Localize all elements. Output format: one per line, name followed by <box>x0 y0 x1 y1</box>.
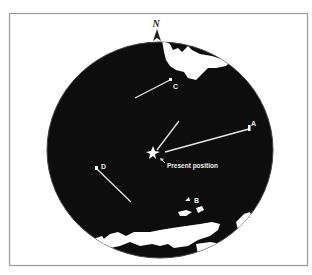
radar-diagram: N C A Present position D <box>0 0 312 275</box>
blip-d <box>95 166 98 170</box>
present-position-label: Present position <box>167 162 218 170</box>
label-b: B <box>194 197 199 204</box>
label-d: D <box>101 163 106 170</box>
label-c: C <box>173 83 178 90</box>
north-label: N <box>151 18 160 29</box>
blip-c <box>169 78 172 81</box>
label-a: A <box>251 120 256 127</box>
